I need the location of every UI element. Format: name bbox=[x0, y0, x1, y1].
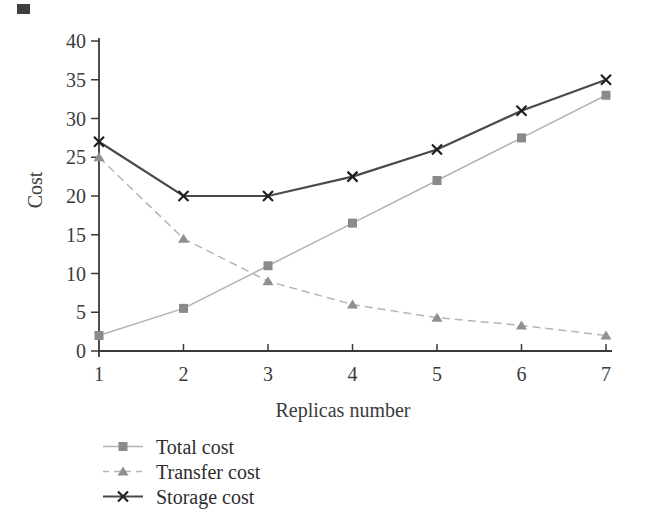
square-marker bbox=[433, 176, 442, 185]
y-tick-label: 15 bbox=[66, 224, 86, 246]
square-marker bbox=[264, 261, 273, 270]
storage-cost-legend-sample bbox=[101, 489, 145, 504]
x-tick-label: 7 bbox=[601, 363, 611, 385]
cost-vs-replicas-chart: Cost Replicas number 0510152025303540123… bbox=[0, 0, 647, 509]
legend-item-total-cost: Total cost bbox=[101, 434, 260, 459]
legend: Total cost Transfer cost Storage cost bbox=[101, 434, 260, 509]
x-tick-label: 2 bbox=[179, 363, 189, 385]
x-tick-label: 1 bbox=[94, 363, 104, 385]
y-tick-label: 0 bbox=[76, 340, 86, 362]
x-tick-label: 3 bbox=[263, 363, 273, 385]
legend-label-transfer-cost: Transfer cost bbox=[156, 462, 260, 482]
y-axis-title: Cost bbox=[24, 171, 46, 208]
legend-label-storage-cost: Storage cost bbox=[156, 487, 254, 507]
x-tick-label: 4 bbox=[348, 363, 358, 385]
transfer-cost-legend-sample bbox=[101, 464, 145, 479]
legend-label-total-cost: Total cost bbox=[156, 437, 234, 457]
series-line bbox=[99, 80, 606, 196]
x-axis-title: Replicas number bbox=[276, 399, 411, 422]
y-tick-label: 35 bbox=[66, 69, 86, 91]
square-marker bbox=[119, 442, 128, 451]
total-cost-legend-sample bbox=[101, 439, 145, 454]
series-storage-cost bbox=[94, 75, 611, 201]
y-tick-label: 20 bbox=[66, 185, 86, 207]
y-tick-label: 30 bbox=[66, 108, 86, 130]
y-tick-label: 10 bbox=[66, 263, 86, 285]
series-transfer-cost bbox=[94, 152, 612, 339]
series-line bbox=[99, 95, 606, 335]
legend-item-storage-cost: Storage cost bbox=[101, 484, 260, 509]
triangle-marker bbox=[178, 234, 189, 243]
series-line bbox=[99, 157, 606, 335]
y-tick-label: 5 bbox=[76, 301, 86, 323]
square-marker bbox=[517, 133, 526, 142]
triangle-marker bbox=[263, 276, 274, 285]
x-tick-label: 6 bbox=[517, 363, 527, 385]
square-marker bbox=[348, 219, 357, 228]
square-marker bbox=[179, 304, 188, 313]
legend-item-transfer-cost: Transfer cost bbox=[101, 459, 260, 484]
square-marker bbox=[95, 331, 104, 340]
scanned-chart-figure: Cost Replicas number 0510152025303540123… bbox=[0, 0, 647, 509]
square-marker bbox=[602, 91, 611, 100]
y-tick-label: 25 bbox=[66, 146, 86, 168]
triangle-marker bbox=[516, 320, 527, 329]
triangle-marker bbox=[347, 300, 358, 309]
y-tick-label: 40 bbox=[66, 30, 86, 52]
x-tick-label: 5 bbox=[432, 363, 442, 385]
